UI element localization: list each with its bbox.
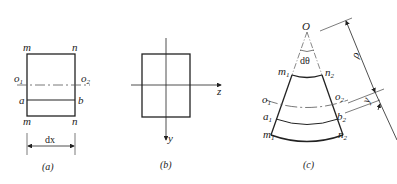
fiber-arc-a1b2 (276, 119, 338, 125)
label-y-distance: y (359, 96, 372, 106)
label-n-bottom: n (72, 115, 78, 127)
radial-line-left-dashed (292, 32, 307, 75)
label-o1: o1 (262, 93, 271, 107)
label-z: z (216, 85, 222, 97)
label-b2: b2 (337, 110, 347, 124)
dtheta-arc (300, 50, 314, 52)
label-n2-bottom: n2 (338, 128, 348, 142)
caption-c: (c) (303, 159, 315, 171)
label-O: O (302, 20, 310, 32)
label-o2: o2 (81, 72, 91, 86)
figure-a: m n m n o1 o2 a b dx (a) (14, 41, 91, 173)
label-y: y (167, 132, 173, 144)
y-dimension-line (375, 92, 397, 140)
label-o1: o1 (14, 72, 23, 86)
label-a: a (19, 94, 25, 106)
caption-a: (a) (42, 161, 54, 173)
figure-c: O dθ m1 n2 o1 o2 a1 b2 m1 n2 ρ y (c) (262, 18, 397, 171)
label-n-top: n (72, 41, 78, 53)
figure-b: z y (b) (131, 38, 222, 171)
label-dtheta: dθ (300, 55, 310, 66)
label-m-top: m (23, 41, 31, 53)
label-n2-top: n2 (325, 66, 335, 80)
arc-m1n2-top (292, 75, 322, 78)
arc-m1n2-bottom (271, 135, 343, 142)
label-m1-top: m1 (278, 65, 289, 79)
radial-line-right-dashed (307, 32, 322, 75)
label-dx: dx (45, 134, 55, 145)
label-a1: a1 (263, 110, 272, 124)
caption-b: (b) (160, 159, 172, 171)
label-o2: o2 (335, 90, 345, 104)
label-rho: ρ (348, 50, 361, 60)
beam-bending-diagram: m n m n o1 o2 a b dx (a) z y (b) (0, 0, 397, 184)
label-m-bottom: m (23, 115, 31, 127)
label-b: b (78, 94, 84, 106)
y-dimension-arrow (378, 104, 380, 110)
